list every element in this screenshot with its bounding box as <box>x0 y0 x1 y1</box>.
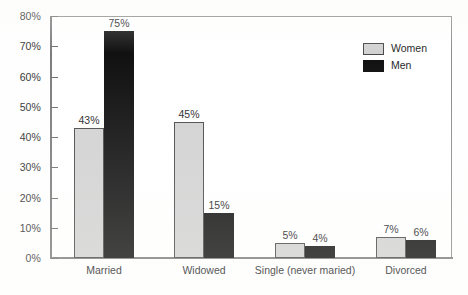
y-axis-tick-label: 10% <box>0 223 41 233</box>
legend-item-men: Men <box>363 58 435 73</box>
y-axis-tick-label: 40% <box>0 132 41 142</box>
legend-item-women: Women <box>363 41 435 56</box>
y-axis-tick-label: 80% <box>0 11 41 21</box>
bar-value-label: 15% <box>200 200 238 211</box>
y-axis-tick-label: 0% <box>0 253 41 263</box>
y-axis-tick <box>51 258 58 259</box>
y-axis-tick-label: 60% <box>0 72 41 82</box>
legend-swatch-men-icon <box>363 60 384 72</box>
bar-value-label: 43% <box>70 115 108 126</box>
y-axis-tick-label: 50% <box>0 102 41 112</box>
bar-women-2 <box>275 243 305 258</box>
bar-men-3 <box>406 240 436 258</box>
bar-men-1 <box>204 213 234 258</box>
legend-swatch-women-icon <box>363 43 384 55</box>
bar-men-2 <box>305 246 335 258</box>
legend-label-women: Women <box>391 43 427 54</box>
bar-chart: 0%10%20%30%40%50%60%70%80% 43%75%45%15%5… <box>0 0 468 295</box>
bar-value-label: 75% <box>100 18 138 29</box>
legend-label-men: Men <box>391 60 411 71</box>
bar-women-3 <box>376 237 406 258</box>
legend: Women Men <box>363 41 435 75</box>
x-axis-label-3: Divorced <box>326 264 468 276</box>
bar-men-0 <box>104 31 134 258</box>
y-axis-tick-label: 20% <box>0 193 41 203</box>
bar-value-label: 4% <box>301 233 339 244</box>
bar-women-1 <box>174 122 204 258</box>
y-axis-tick-label: 70% <box>0 41 41 51</box>
bar-women-0 <box>74 128 104 258</box>
bar-value-label: 6% <box>402 227 440 238</box>
bar-value-label: 45% <box>170 109 208 120</box>
y-axis-tick-label: 30% <box>0 162 41 172</box>
